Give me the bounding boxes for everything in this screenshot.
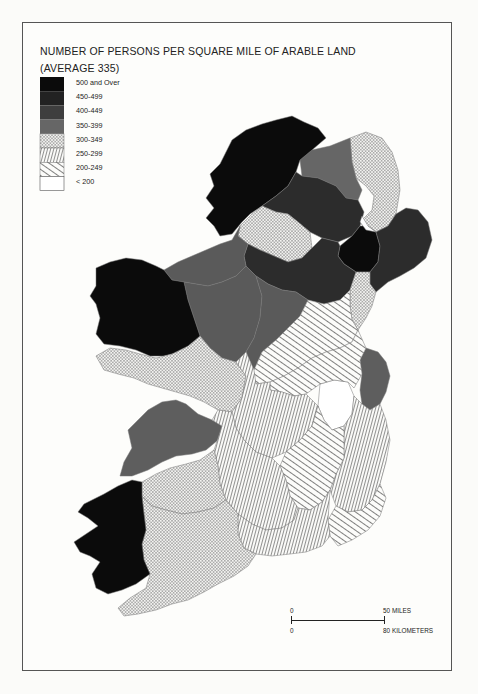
region-wicklow [360, 348, 390, 410]
legend-label: 400-449 [76, 106, 102, 115]
scale-tick-right [384, 616, 385, 624]
scale-km-label: 80 KILOMETERS [383, 627, 433, 634]
legend-label: 350-399 [76, 121, 102, 130]
legend-label: 450-499 [76, 92, 102, 101]
scale-bar: 0 50 MILES 0 80 KILOMETERS [290, 605, 440, 645]
ireland-choropleth-map [0, 0, 478, 694]
legend-swatches [40, 77, 64, 191]
scale-km-zero: 0 [290, 627, 294, 634]
scale-miles-label: 50 MILES [383, 607, 411, 614]
legend-label: 500 and Over [76, 78, 120, 87]
legend-label: < 200 [76, 177, 94, 186]
region-kerry [74, 480, 150, 594]
legend-label: 250-299 [76, 149, 102, 158]
scale-miles-zero: 0 [290, 607, 294, 614]
legend-label: 300-349 [76, 135, 102, 144]
legend-label: 200-249 [76, 163, 102, 172]
scale-line [291, 620, 384, 621]
